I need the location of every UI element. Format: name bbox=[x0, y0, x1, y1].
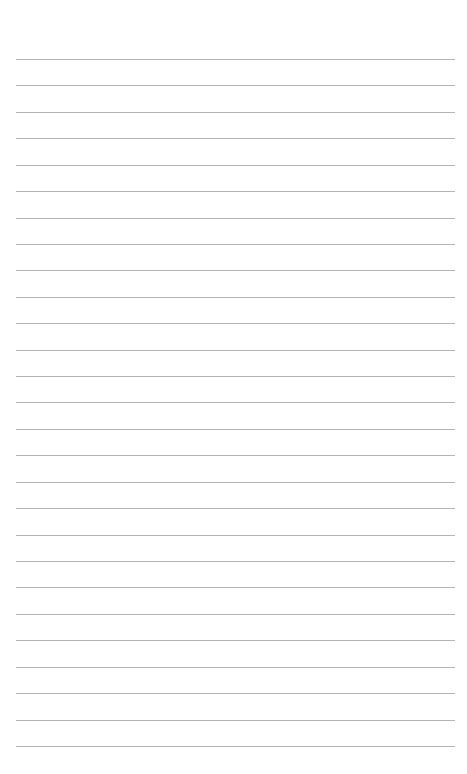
ruled-line bbox=[16, 720, 455, 721]
ruled-line bbox=[16, 218, 455, 219]
ruled-line bbox=[16, 614, 455, 615]
ruled-line bbox=[16, 561, 455, 562]
ruled-line bbox=[16, 402, 455, 403]
ruled-line bbox=[16, 59, 455, 60]
ruled-line bbox=[16, 746, 455, 747]
ruled-line bbox=[16, 693, 455, 694]
ruled-line bbox=[16, 535, 455, 536]
ruled-line bbox=[16, 191, 455, 192]
ruled-line bbox=[16, 85, 455, 86]
ruled-line bbox=[16, 376, 455, 377]
ruled-line bbox=[16, 165, 455, 166]
ruled-line bbox=[16, 138, 455, 139]
ruled-line bbox=[16, 508, 455, 509]
ruled-line bbox=[16, 244, 455, 245]
ruled-line bbox=[16, 350, 455, 351]
ruled-line bbox=[16, 270, 455, 271]
ruled-line bbox=[16, 429, 455, 430]
ruled-line bbox=[16, 640, 455, 641]
ruled-line bbox=[16, 455, 455, 456]
ruled-line bbox=[16, 587, 455, 588]
ruled-line bbox=[16, 112, 455, 113]
ruled-line bbox=[16, 323, 455, 324]
ruled-line bbox=[16, 297, 455, 298]
lined-paper-page bbox=[0, 0, 467, 774]
ruled-line bbox=[16, 482, 455, 483]
ruled-line bbox=[16, 667, 455, 668]
